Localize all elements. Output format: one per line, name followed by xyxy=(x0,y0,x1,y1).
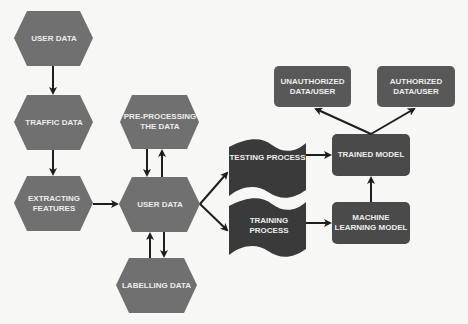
label-extracting-features: EXTRACTING FEATURES xyxy=(24,176,84,231)
label-traffic-data: TRAFFIC DATA xyxy=(16,95,92,150)
label-machine-learning-model: MACHINE LEARNING MODEL xyxy=(334,202,408,244)
arrow-user-to-training xyxy=(200,204,227,230)
label-testing-process: TESTING PROCESS xyxy=(229,141,306,175)
label-pre-processing: PRE-PROCESSING THE DATA xyxy=(120,95,200,149)
arrow-user-to-testing xyxy=(200,173,227,204)
label-authorized: AUTHORIZED DATA/USER xyxy=(388,66,444,107)
label-unauthorized: UNAUTHORIZED DATA/USER xyxy=(278,66,347,107)
arrow-trained-to-unauthorized xyxy=(316,109,371,134)
label-trained-model: TRAINED MODEL xyxy=(332,134,410,176)
label-user-data-center: USER DATA xyxy=(120,177,200,232)
label-labelling-data: LABELLING DATA xyxy=(116,258,197,313)
arrow-trained-to-authorized xyxy=(371,109,414,134)
label-user-data-top: USER DATA xyxy=(16,11,92,66)
label-training-process: TRAINING PROCESS xyxy=(244,208,294,244)
